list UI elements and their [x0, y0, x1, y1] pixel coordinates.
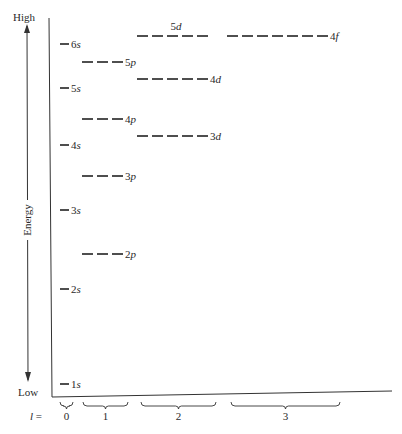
level-5d: 5d	[137, 20, 208, 36]
l-value: 0	[64, 410, 70, 422]
level-4p: 4p	[82, 113, 137, 125]
l-groups: 0123	[60, 402, 340, 422]
orbital-levels: 1s2s3s4s5s6s2p3p4p5p3d4d5d4f	[60, 20, 341, 390]
energy-level-diagram: High Low Energy l = 0123 1s2s3s4s5s6s2p3…	[0, 0, 402, 434]
level-label: 3p	[125, 170, 137, 182]
level-2p: 2p	[82, 248, 137, 260]
l-equals-label: l =	[30, 410, 42, 422]
level-5s: 5s	[60, 82, 81, 94]
x-axis	[52, 391, 392, 397]
brace-icon	[83, 402, 128, 409]
energy-arrow	[20, 24, 36, 382]
l-value: 3	[283, 410, 289, 422]
level-4f: 4f	[227, 30, 341, 42]
level-3s: 3s	[60, 204, 81, 216]
level-label: 4d	[210, 73, 222, 85]
level-4s: 4s	[60, 139, 81, 151]
l-group-1: 1	[83, 402, 128, 422]
y-axis	[49, 18, 52, 397]
l-value: 1	[103, 410, 109, 422]
level-label: 4p	[125, 113, 137, 125]
level-3p: 3p	[82, 170, 137, 182]
level-label: 1s	[71, 378, 81, 390]
level-4d: 4d	[137, 73, 222, 85]
level-3d: 3d	[137, 130, 222, 142]
arrow-down-icon	[25, 372, 31, 382]
level-label: 4f	[330, 30, 341, 42]
level-label: 5d	[171, 20, 183, 32]
brace-icon	[60, 402, 73, 409]
l-group-0: 0	[60, 402, 73, 422]
arrow-up-icon	[24, 24, 30, 33]
level-6s: 6s	[60, 38, 81, 50]
level-label: 5s	[71, 82, 81, 94]
level-5p: 5p	[82, 56, 137, 68]
level-label: 2p	[125, 248, 137, 260]
brace-icon	[231, 402, 340, 409]
l-value: 2	[176, 410, 182, 422]
l-group-2: 2	[141, 402, 216, 422]
l-group-3: 3	[231, 402, 340, 422]
level-1s: 1s	[60, 378, 81, 390]
level-label: 3d	[210, 130, 222, 142]
brace-icon	[141, 402, 216, 409]
low-label: Low	[18, 386, 38, 398]
level-label: 3s	[71, 204, 81, 216]
level-label: 5p	[125, 56, 137, 68]
level-label: 2s	[71, 283, 81, 295]
level-label: 4s	[71, 139, 81, 151]
energy-label: Energy	[21, 204, 33, 236]
level-2s: 2s	[60, 283, 81, 295]
high-label: High	[13, 11, 36, 23]
level-label: 6s	[71, 38, 81, 50]
